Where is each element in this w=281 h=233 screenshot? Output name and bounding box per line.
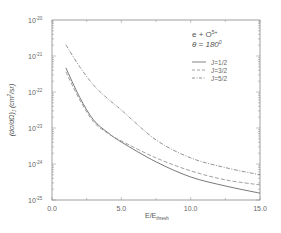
y-tick-label: 10-21	[28, 52, 43, 60]
legend-label-j12: J=1/2	[211, 59, 227, 66]
y-tick-label: 10-23	[28, 124, 43, 132]
x-tick-label: 15.0	[253, 205, 267, 212]
x-major-ticks	[52, 20, 260, 200]
y-tick-label: 10-24	[28, 160, 43, 168]
legend-label-j32: J=3/2	[211, 67, 227, 74]
y-tick-label: 10-22	[28, 88, 43, 96]
x-tick-label: 0.0	[47, 205, 57, 212]
y-tick-label: 10-20	[28, 16, 43, 24]
y-minor-ticks	[52, 22, 260, 200]
angle-annotation: θ = 1800	[192, 39, 222, 49]
legend-label-j52: J=5/2	[211, 75, 227, 82]
series-curves	[66, 45, 260, 193]
y-tick-label: 10-25	[28, 196, 43, 204]
reaction-annotation: e + O5+	[192, 29, 218, 39]
chart: 10-2010-2110-2210-2310-2410-25 0.05.010.…	[0, 0, 281, 233]
series-line-j32	[66, 72, 260, 185]
y-tick-labels: 10-2010-2110-2210-2310-2410-25	[28, 16, 43, 204]
plot-frame	[52, 20, 260, 200]
x-tick-label: 10.0	[184, 205, 198, 212]
x-tick-label: 5.0	[116, 205, 126, 212]
legend: J=1/2 J=3/2 J=5/2	[192, 59, 227, 82]
series-line-j52	[66, 45, 260, 175]
y-axis-title: (dσ/dΩ)J (cm2/sr)	[7, 84, 17, 136]
x-axis-title: E/Ethresh	[145, 212, 169, 221]
x-tick-labels: 0.05.010.015.0	[47, 205, 267, 212]
